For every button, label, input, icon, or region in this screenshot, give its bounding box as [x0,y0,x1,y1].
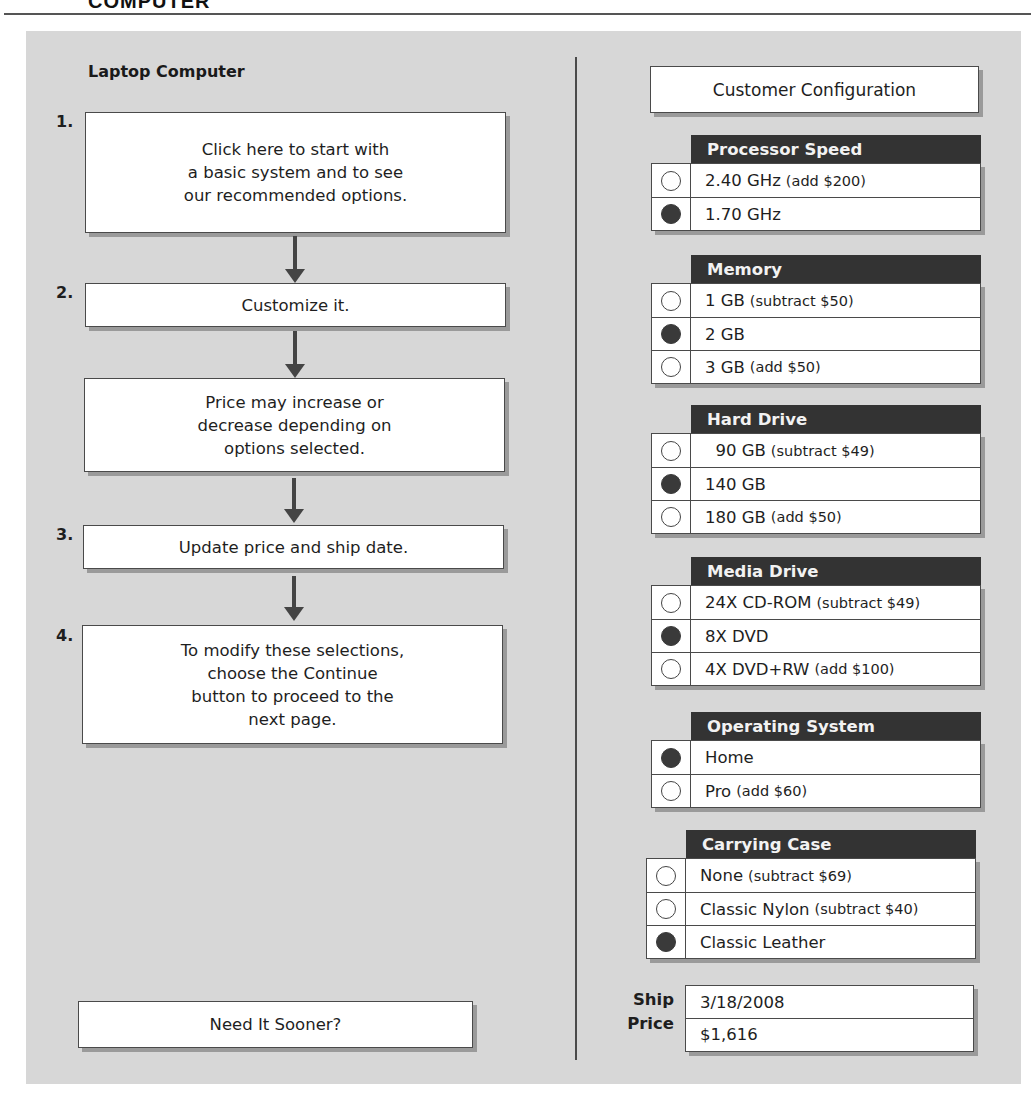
option-row[interactable]: 2 GB [652,317,980,350]
step-number-2: 2. [56,283,73,302]
option-row[interactable]: 1.70 GHz [652,197,980,230]
option-row[interactable]: 24X CD-ROM(subtract $49) [652,586,980,619]
step-1-line-3: our recommended options. [184,184,407,207]
continue-instructions-box: To modify these selections, choose the C… [82,625,503,744]
option-row[interactable]: 2.40 GHz(add $200) [652,164,980,197]
option-row[interactable]: 4X DVD+RW(add $100) [652,652,980,685]
option-row[interactable]: Classic Leather [647,925,975,958]
option-label: Home [705,748,754,767]
option-row[interactable]: Classic Nylon(subtract $40) [647,892,975,925]
start-basic-system-button[interactable]: Click here to start with a basic system … [85,112,506,233]
radio-unselected-icon[interactable] [661,171,681,191]
need-it-sooner-label: Need It Sooner? [210,1013,342,1036]
step-4-line-2: choose the Continue [207,662,377,685]
price-value: $1,616 [686,1018,973,1050]
option-label: 2.40 GHz [705,171,781,190]
processor-speed-group: Processor Speed 2.40 GHz(add $200) 1.70 … [651,135,981,231]
option-price-note: (subtract $49) [771,443,875,459]
radio-unselected-icon[interactable] [661,781,681,801]
summary-labels: Ship Price [610,988,674,1036]
step-1-line-2: a basic system and to see [188,161,403,184]
option-price-note: (subtract $49) [816,595,920,611]
radio-unselected-icon[interactable] [661,507,681,527]
option-row[interactable]: Pro(add $60) [652,774,980,807]
price-label: Price [610,1012,674,1036]
group-header: Processor Speed [691,135,981,163]
radio-unselected-icon[interactable] [661,593,681,613]
carrying-case-group: Carrying Case None(subtract $69) Classic… [646,830,976,959]
flow-arrow-down-icon [284,576,304,621]
option-label: 180 GB [705,508,766,527]
flow-arrow-down-icon [284,478,304,523]
page-heading: COMPUTER [88,0,210,13]
group-header: Carrying Case [686,830,976,858]
group-header: Operating System [691,712,981,740]
option-label: 1 GB [705,291,745,310]
option-price-note: (add $50) [750,359,821,375]
option-row[interactable]: 180 GB(add $50) [652,500,980,533]
option-price-note: (add $100) [814,661,894,677]
ship-date-value: 3/18/2008 [686,986,973,1018]
option-label: None [700,866,743,885]
option-label: 2 GB [705,325,745,344]
column-divider [575,57,577,1060]
operating-system-group: Operating System Home Pro(add $60) [651,712,981,808]
update-price-button[interactable]: Update price and ship date. [83,525,504,569]
radio-unselected-icon[interactable] [656,899,676,919]
step-3-line-1: Update price and ship date. [179,536,408,559]
product-title: Laptop Computer [88,62,245,81]
radio-selected-icon[interactable] [661,204,681,224]
radio-unselected-icon[interactable] [661,659,681,679]
option-price-note: (add $200) [786,173,866,189]
option-label: Classic Leather [700,933,825,952]
radio-selected-icon[interactable] [661,748,681,768]
step-number-3: 3. [56,525,73,544]
option-row[interactable]: 3 GB(add $50) [652,350,980,383]
option-label: 24X CD-ROM [705,593,811,612]
memory-group: Memory 1 GB(subtract $50) 2 GB 3 GB(add … [651,255,981,384]
need-it-sooner-button[interactable]: Need It Sooner? [78,1001,473,1048]
option-label: 4X DVD+RW [705,660,809,679]
step-4-line-4: next page. [248,708,336,731]
hard-drive-group: Hard Drive 90 GB(subtract $49) 140 GB 18… [651,405,981,534]
option-label: Classic Nylon [700,900,810,919]
radio-selected-icon[interactable] [661,626,681,646]
option-row[interactable]: 90 GB(subtract $49) [652,434,980,467]
option-row[interactable]: 8X DVD [652,619,980,652]
radio-selected-icon[interactable] [661,324,681,344]
customize-button[interactable]: Customize it. [85,283,506,327]
step-number-4: 4. [56,626,73,645]
price-note-line-1: Price may increase or [205,391,383,414]
flow-arrow-down-icon [285,236,305,283]
option-row[interactable]: 1 GB(subtract $50) [652,284,980,317]
option-label: 140 GB [705,475,766,494]
customer-configuration-title: Customer Configuration [650,66,979,113]
option-row[interactable]: 140 GB [652,467,980,500]
option-label: 90 GB [705,441,766,460]
flow-arrow-down-icon [285,331,305,378]
step-1-line-1: Click here to start with [202,138,389,161]
heading-rule [4,13,1031,15]
option-label: Pro [705,782,731,801]
group-header: Media Drive [691,557,981,585]
option-price-note: (subtract $50) [750,293,854,309]
group-header: Hard Drive [691,405,981,433]
radio-unselected-icon[interactable] [661,441,681,461]
option-price-note: (add $50) [771,509,842,525]
group-header: Memory [691,255,981,283]
option-row[interactable]: Home [652,741,980,774]
radio-unselected-icon[interactable] [661,357,681,377]
radio-unselected-icon[interactable] [661,291,681,311]
radio-selected-icon[interactable] [656,932,676,952]
radio-unselected-icon[interactable] [656,866,676,886]
option-label: 1.70 GHz [705,205,781,224]
step-4-line-1: To modify these selections, [181,639,404,662]
summary-box: 3/18/2008 $1,616 [685,985,974,1052]
option-row[interactable]: None(subtract $69) [647,859,975,892]
step-2-line-1: Customize it. [241,294,349,317]
radio-selected-icon[interactable] [661,474,681,494]
step-number-1: 1. [56,112,73,131]
option-price-note: (subtract $40) [815,901,919,917]
price-note-line-3: options selected. [224,437,365,460]
ship-label: Ship [610,988,674,1012]
